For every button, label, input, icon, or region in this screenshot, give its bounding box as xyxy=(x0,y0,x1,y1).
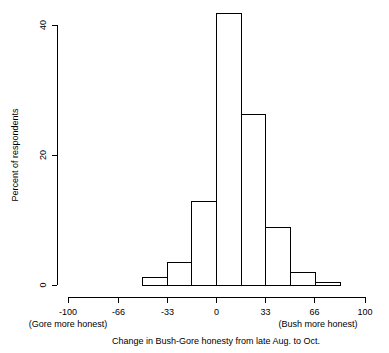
y-axis-title: Percent of respondents xyxy=(10,108,20,202)
y-axis-tick-label: 20 xyxy=(38,150,48,160)
histogram-bar xyxy=(316,282,341,285)
y-axis-tick-label: 40 xyxy=(38,20,48,30)
y-axis-tick-label: 0 xyxy=(38,282,48,287)
histogram-bar xyxy=(217,14,242,285)
histogram-bar xyxy=(192,202,217,285)
x-axis-tick-label: -33 xyxy=(161,307,174,317)
histogram-bar xyxy=(266,227,291,285)
x-axis-tick-label: -66 xyxy=(112,307,125,317)
left-annotation-label: (Gore more honest) xyxy=(29,319,108,329)
x-axis-tick-label: 66 xyxy=(310,307,320,317)
histogram-bar xyxy=(167,262,192,285)
x-axis-title: Change in Bush-Gore honesty from late Au… xyxy=(112,336,320,346)
histogram-bar xyxy=(142,277,167,285)
x-axis-tick-label: 0 xyxy=(214,307,219,317)
histogram-figure: 02040 Percent of respondents -100-66-330… xyxy=(0,0,389,353)
histogram-chart: 02040 Percent of respondents -100-66-330… xyxy=(0,0,389,353)
right-annotation-label: (Bush more honest) xyxy=(278,319,357,329)
x-axis-tick-label: 33 xyxy=(260,307,270,317)
chart-background xyxy=(0,0,389,353)
histogram-bar xyxy=(291,272,316,285)
x-axis-tick-label: 100 xyxy=(357,307,372,317)
histogram-bar xyxy=(241,114,266,285)
x-axis-tick-label: -100 xyxy=(59,307,77,317)
